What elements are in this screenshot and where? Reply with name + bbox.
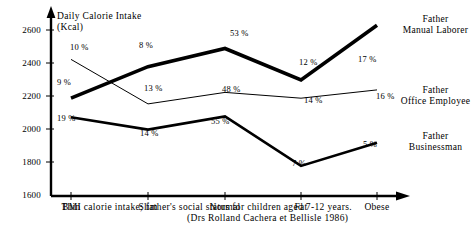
point-label-businessman-obese: 5 % — [363, 139, 377, 149]
ytick-label-2600: 2600 — [8, 25, 41, 35]
ytick-label-2200: 2200 — [8, 91, 41, 101]
chart-caption-line1: BMI calorie intake; father's social stat… — [62, 202, 352, 212]
chart-caption-line2: (Drs Rolland Cachera et Bellisle 1986) — [187, 213, 348, 223]
point-label-laborer-obese: 17 % — [358, 54, 377, 64]
chart-title-unit: (Kcal) — [57, 22, 83, 32]
legend-office-employee-line2: Office Employee — [401, 96, 470, 106]
point-label-office-obese: 16 % — [376, 91, 395, 101]
legend-item-manual-laborer: FatherManual Laborer — [398, 14, 473, 36]
y-axis — [47, 6, 56, 196]
chart-figure: Daily Calorie Intake(Kcal) 2600 2400 220… — [0, 0, 473, 226]
ytick-label-1600: 1600 — [8, 190, 41, 200]
chart-title-text: Daily Calorie Intake — [57, 11, 142, 21]
point-label-laborer-normal: 53 % — [230, 28, 249, 38]
legend-manual-laborer-line1: Father — [422, 14, 448, 24]
xtick-label-obese: Obese — [347, 202, 407, 212]
ytick-label-2400: 2400 — [8, 58, 41, 68]
point-label-businessman-slim: 14 % — [140, 128, 159, 138]
point-label-laborer-fat: 12 % — [299, 57, 318, 67]
legend-manual-laborer-line2: Manual Laborer — [403, 25, 469, 35]
chart-axis-title: Daily Calorie Intake(Kcal) — [57, 11, 142, 32]
legend-item-office-employee: FatherOffice Employee — [398, 85, 473, 107]
legend-businessman-line1: Father — [422, 131, 448, 141]
point-label-laborer-thin: 9 % — [57, 77, 71, 87]
point-label-businessman-thin: 19 % — [57, 113, 76, 123]
point-label-office-thin: 10 % — [70, 42, 89, 52]
legend-businessman-line2: Businessman — [409, 142, 462, 152]
point-label-office-fat: 14 % — [304, 95, 323, 105]
legend-item-businessman: FatherBusinessman — [398, 131, 473, 153]
point-label-businessman-normal: 55 % — [211, 116, 230, 126]
ytick-label-1800: 1800 — [8, 157, 41, 167]
series-line-office-employee — [71, 59, 377, 104]
point-label-office-normal: 48 % — [222, 84, 241, 94]
point-label-businessman-fat: 7 % — [292, 158, 306, 168]
ytick-label-2000: 2000 — [8, 124, 41, 134]
point-label-office-slim: 13 % — [144, 83, 163, 93]
x-axis — [51, 191, 410, 200]
legend-office-employee-line1: Father — [422, 85, 448, 95]
point-label-laborer-slim: 8 % — [139, 40, 153, 50]
